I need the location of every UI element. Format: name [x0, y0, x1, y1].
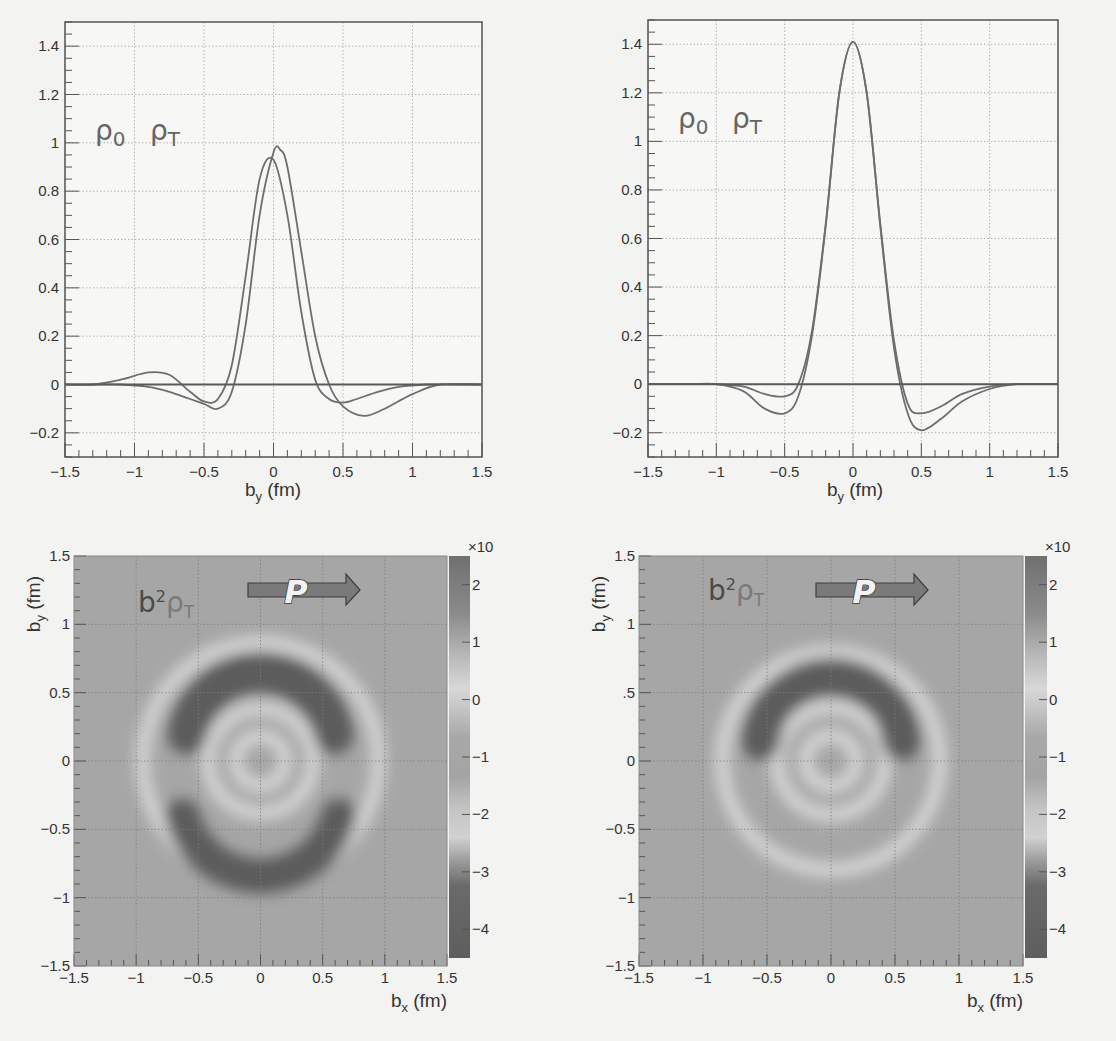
- y-tick-label: 0.2: [621, 327, 642, 344]
- y-tick-label: 0.2: [38, 327, 59, 344]
- x-tick-label: 0: [849, 463, 857, 480]
- heatmap-image: [639, 556, 1023, 966]
- x-tick-label: 1: [985, 463, 993, 480]
- figure: −1.5−1−0.500.511.5−0.200.20.40.60.811.21…: [0, 0, 1116, 1041]
- x-tick-label: 1.5: [437, 969, 458, 986]
- line-chart-top-right: −1.5−1−0.500.511.5−0.200.20.40.60.811.21…: [612, 20, 1068, 504]
- colorbar-tick-label: −2: [1049, 805, 1066, 822]
- x-axis-label: by (fm): [245, 479, 301, 504]
- momentum-label: P: [284, 573, 308, 611]
- x-tick-label: 1: [381, 969, 389, 986]
- y-tick-label: 1: [627, 615, 635, 632]
- colorbar-tick-label: −3: [472, 863, 489, 880]
- y-tick-label: 1.2: [38, 86, 59, 103]
- y-tick-label: 0: [51, 376, 59, 393]
- x-tick-label: 1.5: [472, 463, 493, 480]
- colorbar-tick-label: 1: [472, 633, 480, 650]
- colorbar: 210−1−2−3−4×10: [449, 538, 493, 958]
- x-tick-label: −1: [694, 969, 711, 986]
- heatmap-bottom-right: −1.5−1−0.500.511.5−1.5−1−0.50.511.5210−1…: [588, 538, 1070, 1015]
- y-axis-label: by (fm): [588, 576, 613, 632]
- x-tick-label: −0.5: [752, 969, 782, 986]
- x-tick-label: 0.5: [911, 463, 932, 480]
- y-tick-label: 1.2: [621, 84, 642, 101]
- x-tick-label: −1.5: [50, 463, 80, 480]
- y-tick-label: 0.6: [621, 230, 642, 247]
- x-tick-label: 1.5: [1013, 969, 1034, 986]
- x-tick-label: −1: [128, 969, 145, 986]
- y-tick-label: −1.5: [40, 957, 70, 974]
- y-tick-label: −1: [618, 889, 635, 906]
- y-tick-label: 1: [51, 134, 59, 151]
- y-tick-label: 0.4: [621, 278, 642, 295]
- colorbar: 210−1−2−3−4×10: [1025, 538, 1070, 958]
- x-tick-label: 0.5: [885, 969, 906, 986]
- colorbar-tick-label: −2: [472, 805, 489, 822]
- heatmap-bottom-left: −1.5−1−0.500.511.5−1.5−1−0.500.511.5210−…: [23, 538, 493, 1015]
- x-axis-label: by (fm): [827, 479, 883, 504]
- y-tick-label: 0.8: [38, 182, 59, 199]
- x-tick-label: 0: [827, 969, 835, 986]
- y-tick-label: 0: [627, 752, 635, 769]
- x-tick-label: 0: [256, 969, 264, 986]
- colorbar-tick-label: 2: [1049, 576, 1057, 593]
- x-tick-label: 0: [269, 463, 277, 480]
- x-tick-label: −0.5: [770, 463, 800, 480]
- y-tick-label: .5: [622, 684, 635, 701]
- colorbar-tick-label: −3: [1049, 863, 1066, 880]
- colorbar-tick-label: −4: [472, 920, 489, 937]
- colorbar-multiplier: ×10: [1045, 538, 1070, 555]
- y-axis-label: by (fm): [23, 576, 48, 632]
- heatmap-image: [74, 556, 447, 966]
- colorbar-tick-label: −1: [472, 748, 489, 765]
- x-tick-label: 1: [955, 969, 963, 986]
- y-tick-label: 0.5: [49, 684, 70, 701]
- x-tick-label: −0.5: [184, 969, 214, 986]
- y-tick-label: 0.8: [621, 181, 642, 198]
- x-tick-label: −0.5: [189, 463, 219, 480]
- y-tick-label: −0.5: [40, 820, 70, 837]
- y-tick-label: 1: [634, 132, 642, 149]
- x-axis-label: bx (fm): [391, 990, 447, 1015]
- x-tick-label: −1: [126, 463, 143, 480]
- y-tick-label: −1: [53, 889, 70, 906]
- x-tick-label: 0.5: [312, 969, 333, 986]
- colorbar-tick-label: −4: [1049, 920, 1066, 937]
- x-axis-label: bx (fm): [967, 990, 1023, 1015]
- colorbar-tick-label: 0: [1049, 691, 1057, 708]
- colorbar-tick-label: 1: [1049, 633, 1057, 650]
- line-chart-top-left: −1.5−1−0.500.511.5−0.200.20.40.60.811.21…: [29, 22, 492, 504]
- y-tick-label: 1.4: [38, 37, 59, 54]
- x-tick-label: −1.5: [633, 463, 663, 480]
- x-tick-label: −1: [708, 463, 725, 480]
- y-tick-label: 1.5: [49, 547, 70, 564]
- colorbar-tick-label: 2: [472, 576, 480, 593]
- y-tick-label: 0: [62, 752, 70, 769]
- y-tick-label: 1: [62, 615, 70, 632]
- x-tick-label: 0.5: [333, 463, 354, 480]
- y-tick-label: −0.2: [29, 424, 59, 441]
- momentum-label: P: [852, 573, 876, 611]
- y-tick-label: −1.5: [605, 957, 635, 974]
- colorbar-tick-label: 0: [472, 691, 480, 708]
- y-tick-label: −0.5: [605, 820, 635, 837]
- y-tick-label: 1.4: [621, 35, 642, 52]
- y-tick-label: 0.4: [38, 279, 59, 296]
- y-tick-label: 0: [634, 375, 642, 392]
- y-tick-label: 0.6: [38, 231, 59, 248]
- y-tick-label: −0.2: [612, 424, 642, 441]
- colorbar-multiplier: ×10: [468, 538, 493, 555]
- x-tick-label: 1.5: [1048, 463, 1069, 480]
- x-tick-label: 1: [408, 463, 416, 480]
- colorbar-tick-label: −1: [1049, 748, 1066, 765]
- y-tick-label: 1.5: [614, 547, 635, 564]
